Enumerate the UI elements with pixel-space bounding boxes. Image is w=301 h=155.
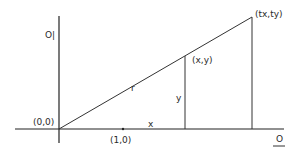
radius-label: r bbox=[131, 83, 135, 93]
unit-point-label: (1,0) bbox=[110, 135, 131, 145]
ray-r bbox=[59, 17, 252, 129]
y-leg-label: y bbox=[176, 93, 182, 103]
unit-point-dot bbox=[122, 128, 124, 130]
horizontal-axis-label: O bbox=[276, 134, 283, 144]
point-txty-label: (tx,ty) bbox=[255, 9, 283, 19]
origin-label: (0,0) bbox=[33, 117, 54, 127]
point-xy-label: (x,y) bbox=[192, 55, 213, 65]
vertical-axis-label: O| bbox=[45, 30, 55, 40]
x-leg-label: x bbox=[148, 119, 154, 129]
similar-triangles-diagram: O| (0,0) (1,0) (x,y) (tx,ty) r x y O bbox=[0, 0, 301, 155]
